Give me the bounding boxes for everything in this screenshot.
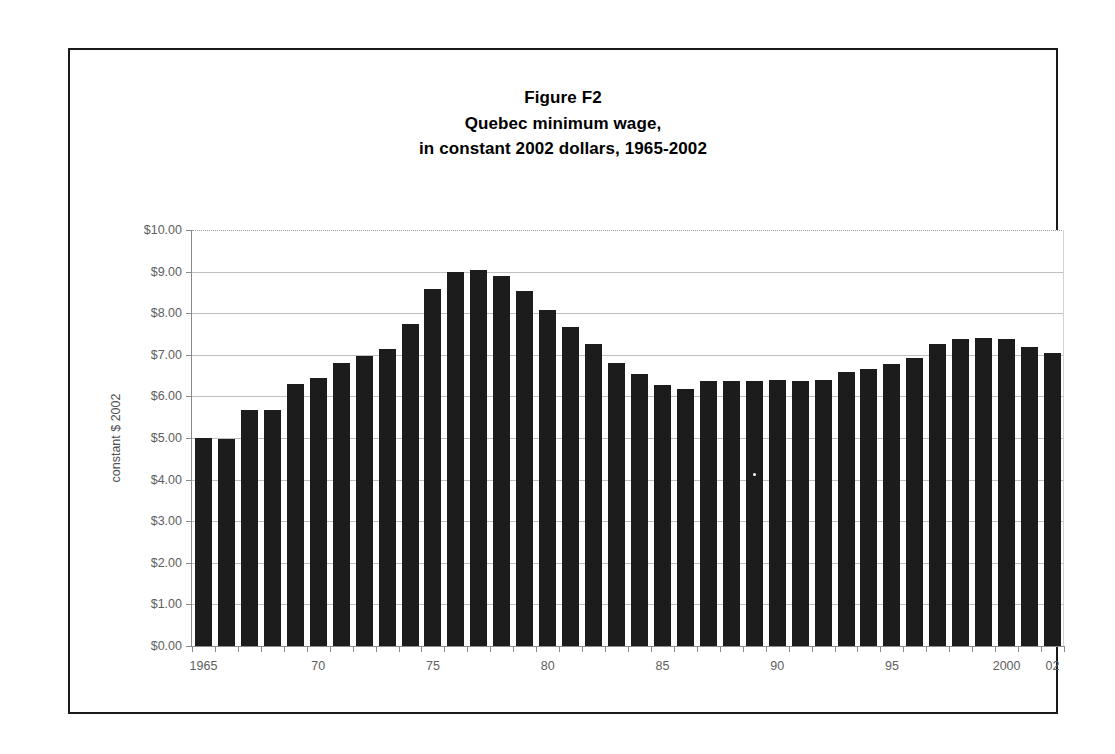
x-axis-tick <box>995 646 996 652</box>
x-axis-tick <box>743 646 744 652</box>
bar <box>493 276 510 646</box>
bar <box>241 410 258 646</box>
x-axis-tick <box>559 646 560 652</box>
bar <box>906 358 923 646</box>
x-axis-tick <box>1041 646 1042 652</box>
y-axis-label: $6.00 <box>151 389 182 403</box>
y-axis-label: $2.00 <box>151 556 182 570</box>
y-axis-tick <box>186 521 192 522</box>
y-axis-title: constant $ 2002 <box>108 230 124 646</box>
y-axis-tick <box>186 355 192 356</box>
x-axis-tick <box>1018 646 1019 652</box>
bar <box>769 380 786 646</box>
gridline <box>192 230 1064 231</box>
y-axis-tick <box>186 604 192 605</box>
bar <box>838 372 855 646</box>
chart-title-line-2: Quebec minimum wage, <box>70 111 1056 137</box>
y-axis-label: $8.00 <box>151 306 182 320</box>
bar <box>310 378 327 646</box>
bar <box>792 381 809 646</box>
x-axis-label: 85 <box>655 659 669 673</box>
bar <box>654 385 671 646</box>
x-axis-tick <box>972 646 973 652</box>
x-axis-tick <box>789 646 790 652</box>
x-axis-tick <box>307 646 308 652</box>
y-axis-label: $0.00 <box>151 639 182 653</box>
y-axis-label: $5.00 <box>151 431 182 445</box>
y-axis-label: $4.00 <box>151 473 182 487</box>
x-axis-tick <box>766 646 767 652</box>
x-axis-tick <box>444 646 445 652</box>
bar <box>929 344 946 646</box>
bar <box>287 384 304 646</box>
x-axis-tick <box>949 646 950 652</box>
y-axis-tick <box>186 396 192 397</box>
bar <box>585 344 602 646</box>
x-axis-label: 80 <box>541 659 555 673</box>
x-axis-tick <box>582 646 583 652</box>
plot-wrap: 1965707580859095200002 $0.00$1.00$2.00$3… <box>192 230 1064 646</box>
gridline <box>192 313 1064 314</box>
y-axis-label: $10.00 <box>144 223 182 237</box>
plot-area: 1965707580859095200002 <box>192 230 1064 646</box>
x-axis-tick <box>421 646 422 652</box>
x-axis-label: 75 <box>426 659 440 673</box>
bar <box>379 349 396 646</box>
bar <box>723 381 740 646</box>
bar <box>356 356 373 646</box>
x-axis-label: 02 <box>1046 659 1060 673</box>
x-axis-tick <box>651 646 652 652</box>
y-axis-label: $9.00 <box>151 265 182 279</box>
bar <box>608 363 625 646</box>
bar <box>447 272 464 646</box>
y-axis-tick <box>186 563 192 564</box>
x-axis-tick <box>376 646 377 652</box>
plot-right-border <box>1063 230 1064 646</box>
x-axis-tick <box>192 646 193 652</box>
bar <box>333 363 350 646</box>
x-axis-tick <box>467 646 468 652</box>
scan-artifact-speck <box>753 473 756 476</box>
bar <box>424 289 441 646</box>
y-axis-tick <box>186 230 192 231</box>
bar <box>631 374 648 646</box>
x-axis-tick <box>903 646 904 652</box>
y-axis-title-label: constant $ 2002 <box>109 394 123 483</box>
bar <box>402 324 419 646</box>
x-axis-tick <box>1064 646 1065 652</box>
bar <box>700 381 717 646</box>
x-axis-tick <box>490 646 491 652</box>
x-axis-label: 90 <box>770 659 784 673</box>
chart-title-line-3: in constant 2002 dollars, 1965-2002 <box>70 136 1056 162</box>
y-axis-tick <box>186 438 192 439</box>
x-axis-tick <box>674 646 675 652</box>
bar <box>562 327 579 646</box>
x-axis-label: 1965 <box>190 659 218 673</box>
bar <box>539 310 556 646</box>
bar <box>195 438 212 646</box>
x-axis-label: 95 <box>885 659 899 673</box>
bar <box>860 369 877 646</box>
bar <box>746 381 763 646</box>
x-axis-tick <box>835 646 836 652</box>
bar <box>1044 353 1061 646</box>
bar <box>883 364 900 646</box>
x-axis-tick <box>513 646 514 652</box>
gridline <box>192 272 1064 273</box>
y-axis-label: $7.00 <box>151 348 182 362</box>
x-axis-tick <box>812 646 813 652</box>
y-axis-tick <box>186 272 192 273</box>
chart-title-line-1: Figure F2 <box>70 85 1056 111</box>
x-axis-label: 2000 <box>993 659 1021 673</box>
y-axis-tick <box>186 313 192 314</box>
x-axis-tick <box>399 646 400 652</box>
x-axis-tick <box>261 646 262 652</box>
x-axis-tick <box>330 646 331 652</box>
bar <box>218 439 235 646</box>
x-axis-tick <box>605 646 606 652</box>
x-axis-tick <box>215 646 216 652</box>
x-axis-tick <box>857 646 858 652</box>
x-axis-tick <box>628 646 629 652</box>
y-axis-tick <box>186 480 192 481</box>
bar <box>470 270 487 646</box>
